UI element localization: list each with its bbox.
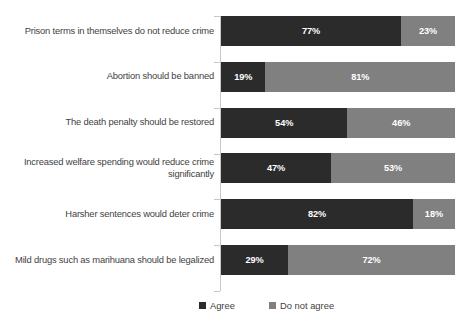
bar-segment-agree[interactable]: 82%	[221, 199, 413, 229]
stacked-bar-chart: Prison terms in themselves do not reduce…	[0, 0, 473, 328]
chart-legend: AgreeDo not agree	[0, 300, 473, 311]
stacked-bar[interactable]: 29%72%	[221, 245, 455, 275]
bar-segment-agree[interactable]: 29%	[221, 245, 288, 275]
bar-segment-do-not-agree[interactable]: 23%	[401, 16, 455, 46]
bar-segment-agree[interactable]: 77%	[221, 16, 401, 46]
plot-area: Prison terms in themselves do not reduce…	[0, 8, 473, 290]
category-label: Harsher sentences would deter crime	[0, 208, 214, 221]
category-label: The death penalty should be restored	[0, 116, 214, 129]
bar-segment-do-not-agree[interactable]: 53%	[331, 153, 455, 183]
bar-segment-do-not-agree[interactable]: 18%	[413, 199, 455, 229]
legend-swatch-icon	[269, 302, 276, 309]
legend-item-do-not-agree[interactable]: Do not agree	[269, 300, 334, 311]
bar-segment-do-not-agree[interactable]: 72%	[288, 245, 455, 275]
bar-segment-agree[interactable]: 47%	[221, 153, 331, 183]
category-label: Mild drugs such as marihuana should be l…	[0, 254, 214, 267]
stacked-bar[interactable]: 47%53%	[221, 153, 455, 183]
stacked-bar[interactable]: 19%81%	[221, 62, 455, 92]
stacked-bar[interactable]: 82%18%	[221, 199, 455, 229]
axis-tick	[214, 291, 220, 292]
bar-segment-do-not-agree[interactable]: 81%	[265, 62, 455, 92]
bar-segment-agree[interactable]: 54%	[221, 108, 347, 138]
legend-swatch-icon	[199, 302, 206, 309]
category-label: Prison terms in themselves do not reduce…	[0, 25, 214, 38]
bar-segment-agree[interactable]: 19%	[221, 62, 265, 92]
stacked-bar[interactable]: 54%46%	[221, 108, 455, 138]
legend-label: Do not agree	[280, 300, 334, 311]
category-label: Abortion should be banned	[0, 70, 214, 83]
category-label: Increased welfare spending would reduce …	[0, 156, 214, 181]
stacked-bar[interactable]: 77%23%	[221, 16, 455, 46]
legend-item-agree[interactable]: Agree	[199, 300, 235, 311]
bar-segment-do-not-agree[interactable]: 46%	[347, 108, 455, 138]
legend-label: Agree	[210, 300, 235, 311]
